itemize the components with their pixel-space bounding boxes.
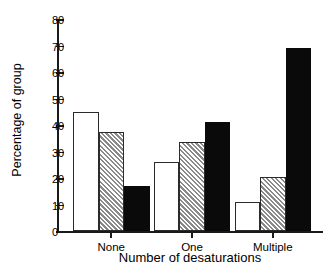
y-axis-title: Percentage of group — [6, 0, 28, 240]
x-axis-tick — [110, 232, 112, 238]
bar-multiple-black — [286, 48, 312, 231]
x-axis-line — [57, 231, 323, 233]
bar-multiple-white — [235, 202, 261, 231]
bar-one-white — [154, 162, 180, 231]
bar-multiple-hatched — [260, 177, 286, 231]
bar-one-hatched — [179, 142, 205, 231]
bar-none-white — [73, 112, 99, 231]
bar-none-hatched — [99, 132, 125, 231]
x-axis-tick — [272, 232, 274, 238]
bar-one-black — [205, 122, 231, 231]
x-axis-title: Number of desaturations — [57, 250, 323, 265]
plot-area: 01020304050607080 NoneOneMultiple — [57, 20, 323, 232]
bar-chart-figure: Percentage of group 01020304050607080 No… — [0, 0, 332, 276]
y-axis-title-text: Percentage of group — [10, 63, 24, 176]
x-axis-tick — [191, 232, 193, 238]
bar-none-black — [124, 186, 150, 231]
